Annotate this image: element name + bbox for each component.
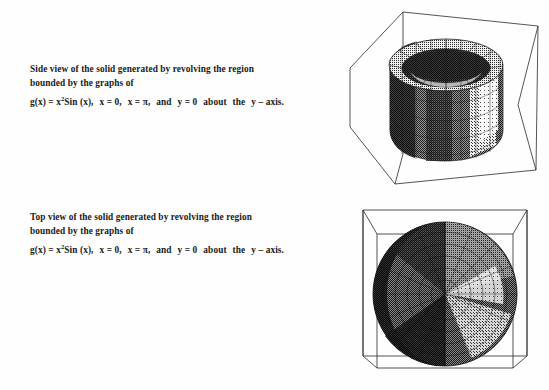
caption-line-2: bounded by the graphs of bbox=[30, 224, 330, 238]
equation-the: the bbox=[233, 245, 246, 255]
equation-function-label: g(x) = x bbox=[30, 245, 61, 255]
caption-side-view: Side view of the solid generated by revo… bbox=[30, 62, 330, 109]
caption-line-2: bounded by the graphs of bbox=[30, 76, 330, 90]
equation-bound-x-lower: x = 0, bbox=[100, 97, 122, 107]
equation-bound-x-upper: x = π, bbox=[128, 245, 151, 255]
equation-bound-y: y = 0 bbox=[178, 245, 198, 255]
side-view-plot bbox=[340, 2, 545, 188]
side-view-plot-svg bbox=[340, 2, 545, 188]
caption-line-1: Top view of the solid generated by revol… bbox=[30, 210, 330, 224]
equation-conjunction: and bbox=[156, 97, 171, 107]
document-page: Side view of the solid generated by revo… bbox=[0, 0, 549, 390]
top-view-plot bbox=[345, 196, 545, 386]
caption-top-view: Top view of the solid generated by revol… bbox=[30, 210, 330, 257]
top-view-plot-svg bbox=[345, 196, 545, 386]
equation-axis: y – axis. bbox=[251, 245, 284, 255]
equation-about: about bbox=[203, 97, 226, 107]
equation-function-label: g(x) = x bbox=[30, 97, 61, 107]
caption-equation: g(x) = x2Sin (x),x = 0,x = π,andy = 0abo… bbox=[30, 243, 330, 257]
equation-the: the bbox=[233, 97, 246, 107]
equation-bound-x-upper: x = π, bbox=[128, 97, 151, 107]
equation-axis: y – axis. bbox=[251, 97, 284, 107]
caption-line-1: Side view of the solid generated by revo… bbox=[30, 62, 330, 76]
solid-of-revolution bbox=[389, 39, 503, 161]
equation-bound-x-lower: x = 0, bbox=[100, 245, 122, 255]
caption-equation: g(x) = x2Sin (x),x = 0,x = π,andy = 0abo… bbox=[30, 95, 330, 109]
equation-function-rest: Sin (x), bbox=[64, 97, 93, 107]
solid-of-revolution bbox=[373, 222, 517, 366]
equation-function-rest: Sin (x), bbox=[64, 245, 93, 255]
equation-bound-y: y = 0 bbox=[178, 97, 198, 107]
equation-about: about bbox=[203, 245, 226, 255]
equation-conjunction: and bbox=[156, 245, 171, 255]
